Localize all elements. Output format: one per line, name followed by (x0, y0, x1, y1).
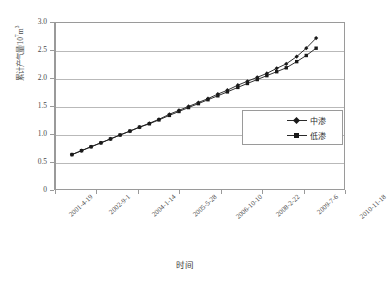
y-tick-label: 2.5 (38, 46, 47, 54)
x-tick-mark (179, 190, 180, 194)
x-tick-label: 2008-2-22 (275, 193, 302, 218)
data-point-diamond (275, 66, 279, 70)
y-tick-mark (50, 190, 54, 191)
x-tick-mark (55, 190, 56, 194)
data-point-square (236, 86, 239, 89)
data-point-square (206, 98, 209, 101)
y-tick-label: 0 (43, 186, 47, 194)
data-point-square (168, 114, 171, 117)
data-point-square (99, 141, 102, 144)
data-point-square (256, 78, 259, 81)
data-point-square (177, 110, 180, 113)
x-tick-label: 2006-10-10 (234, 193, 264, 221)
x-tick-label: 2001-4-19 (67, 193, 94, 218)
y-tick-mark (50, 106, 54, 107)
data-point-square (80, 149, 83, 152)
y-tick-mark (50, 78, 54, 79)
x-tick-mark (345, 190, 346, 194)
legend-marker-square-icon (287, 131, 307, 141)
x-tick-mark (304, 190, 305, 194)
data-point-square (187, 106, 190, 109)
data-point-square (216, 94, 219, 97)
x-tick-mark (221, 190, 222, 194)
x-tick-mark (262, 190, 263, 194)
x-tick-mark (138, 190, 139, 194)
y-tick-label: 0.5 (38, 158, 47, 166)
data-point-square (138, 125, 141, 128)
legend-marker-diamond-icon (287, 116, 307, 126)
y-tick-mark (50, 50, 54, 51)
y-tick-mark (50, 134, 54, 135)
data-point-square (226, 90, 229, 93)
data-point-square (128, 129, 131, 132)
legend-item-1[interactable]: 低渗 (243, 128, 342, 143)
x-tick-mark (96, 190, 97, 194)
x-tick-label: 2010-11-18 (358, 193, 387, 221)
data-point-square (285, 66, 288, 69)
data-point-square (246, 82, 249, 85)
plot-area (55, 22, 345, 190)
y-tick-mark (50, 162, 54, 163)
y-tick-label: 1.5 (38, 102, 47, 110)
x-axis-title: 时间 (0, 258, 370, 270)
legend-label-0: 中渗 (310, 115, 326, 126)
data-point-square (89, 145, 92, 148)
data-point-square (305, 54, 308, 57)
x-tick-label: 2004-1-14 (150, 193, 177, 218)
data-point-square (148, 122, 151, 125)
data-point-square (118, 133, 121, 136)
data-point-square (197, 102, 200, 105)
data-point-square (109, 137, 112, 140)
y-tick-label: 3.0 (38, 18, 47, 26)
data-point-square (295, 60, 298, 63)
data-point-square (314, 47, 317, 50)
x-tick-label: 2005-5-28 (192, 193, 219, 218)
y-tick-label: 1.0 (38, 130, 47, 138)
series-layer (56, 23, 346, 191)
data-point-square (157, 118, 160, 121)
y-axis-ticks: 00.51.01.52.02.53.0 (0, 0, 55, 190)
legend-item-0[interactable]: 中渗 (243, 113, 342, 128)
chart-legend: 中渗 低渗 (242, 110, 343, 145)
data-point-square (265, 74, 268, 77)
x-tick-label: 2009-7-6 (315, 193, 339, 216)
y-tick-label: 2.0 (38, 74, 47, 82)
data-point-square (275, 70, 278, 73)
y-tick-mark (50, 22, 54, 23)
data-point-square (70, 153, 73, 156)
x-tick-label: 2002-9-1 (108, 193, 132, 216)
legend-label-1: 低渗 (310, 130, 326, 141)
